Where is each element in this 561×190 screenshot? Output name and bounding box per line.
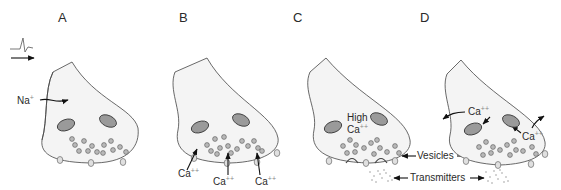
presynaptic-terminal-b — [173, 58, 278, 163]
vesicles-label: Vesicles — [417, 150, 454, 161]
spike-waveform-icon — [10, 38, 33, 52]
transmitters-label: Transmitters — [410, 172, 465, 183]
high-label: High — [347, 112, 368, 123]
ion-label-na: Na+ — [17, 94, 34, 106]
panel-letter-d: D — [420, 10, 429, 25]
panel-b: B Ca++ Ca++ Ca++ — [173, 10, 280, 187]
ion-label-ca-1: Ca++ — [178, 167, 199, 179]
panel-letter-a: A — [58, 10, 67, 25]
ion-label-ca-3: Ca++ — [255, 175, 276, 187]
transmitter-cloud-c — [369, 169, 392, 182]
panel-a: A Na+ — [10, 10, 138, 167]
panel-letter-c: C — [293, 10, 302, 25]
panel-c: C High Ca++ — [293, 10, 410, 183]
ion-label-ca-2: Ca++ — [213, 175, 234, 187]
transmitter-cloud-d — [485, 169, 508, 183]
panel-letter-b: B — [179, 10, 188, 25]
synaptic-transmission-diagram: A Na+ B — [0, 0, 561, 190]
